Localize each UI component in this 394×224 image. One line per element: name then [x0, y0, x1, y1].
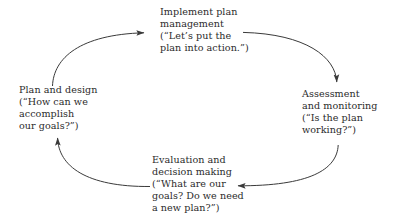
node-evaluation-and-decision-making: Evaluation and decision making (“What ar… — [152, 154, 244, 214]
arrow-evaluation-to-plan — [58, 138, 150, 187]
arrow-assessment-to-evaluation — [238, 145, 338, 186]
node-plan-and-design: Plan and design (“How can we accomplish … — [19, 84, 97, 132]
node-implement-plan-management: Implement plan management (“Let’s put th… — [160, 6, 249, 54]
arrow-implement-to-assessment — [243, 32, 337, 82]
arrow-plan-to-implement — [53, 33, 145, 86]
cycle-diagram: Implement plan management (“Let’s put th… — [0, 0, 394, 224]
node-assessment-and-monitoring: Assessment and monitoring (“Is the plan … — [302, 88, 378, 136]
